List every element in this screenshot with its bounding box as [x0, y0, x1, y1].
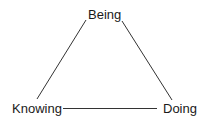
node-being: Being [88, 8, 121, 21]
node-knowing: Knowing [12, 102, 62, 115]
node-doing: Doing [163, 102, 197, 115]
edge-being-knowing [37, 20, 86, 99]
edge-being-doing [122, 21, 172, 100]
